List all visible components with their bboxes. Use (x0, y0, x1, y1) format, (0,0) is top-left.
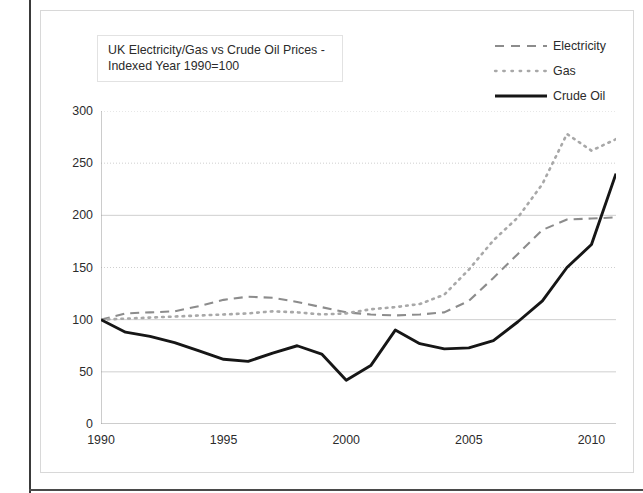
legend-label-electricity: Electricity (553, 39, 606, 53)
dashed-line-icon (493, 40, 549, 52)
chart-legend: Electricity Gas Cr (493, 33, 606, 108)
y-axis-label-100: 100 (51, 314, 93, 326)
y-axis-label-0: 0 (51, 418, 93, 430)
plot-area (101, 111, 616, 424)
x-axis-label-1990: 1990 (71, 434, 131, 446)
x-axis-label-2000: 2000 (316, 434, 376, 446)
page-bottom-edge (29, 489, 643, 491)
legend-item-crude-oil: Crude Oil (493, 83, 606, 108)
legend-item-gas: Gas (493, 58, 606, 83)
y-axis-label-300: 300 (51, 105, 93, 117)
x-axis-label-2005: 2005 (439, 434, 499, 446)
page-left-edge (29, 0, 31, 493)
solid-line-icon (493, 90, 549, 102)
y-axis-label-50: 50 (51, 366, 93, 378)
chart-title-line-2: Indexed Year 1990=100 (108, 58, 334, 74)
chart-title: UK Electricity/Gas vs Crude Oil Prices -… (97, 35, 343, 82)
series-line-gas (101, 134, 616, 320)
x-axis-label-1995: 1995 (194, 434, 254, 446)
chart-container: UK Electricity/Gas vs Crude Oil Prices -… (40, 10, 634, 473)
screenshot-page: UK Electricity/Gas vs Crude Oil Prices -… (0, 0, 643, 493)
y-axis-label-250: 250 (51, 157, 93, 169)
chart-title-line-1: UK Electricity/Gas vs Crude Oil Prices - (108, 42, 334, 58)
y-axis-label-200: 200 (51, 209, 93, 221)
legend-label-gas: Gas (553, 64, 576, 78)
legend-label-crude-oil: Crude Oil (553, 89, 605, 103)
chart-inner: UK Electricity/Gas vs Crude Oil Prices -… (41, 11, 635, 474)
chart-plot-svg (101, 111, 616, 424)
series-line-crude-oil (101, 174, 616, 381)
dotted-line-icon (493, 65, 549, 77)
legend-item-electricity: Electricity (493, 33, 606, 58)
x-axis-label-2010: 2010 (561, 434, 621, 446)
y-axis-label-150: 150 (51, 262, 93, 274)
